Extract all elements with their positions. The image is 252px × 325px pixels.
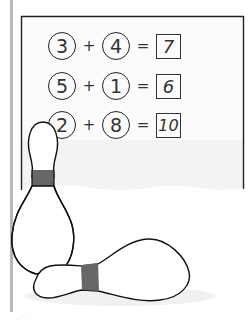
standing-pin-icon [12,122,74,274]
svg-text:· ·· ‛ · ·: · ·· ‛ · · [14,315,30,321]
bowling-pins-illustration: · ·· ‛ · · [0,0,252,325]
